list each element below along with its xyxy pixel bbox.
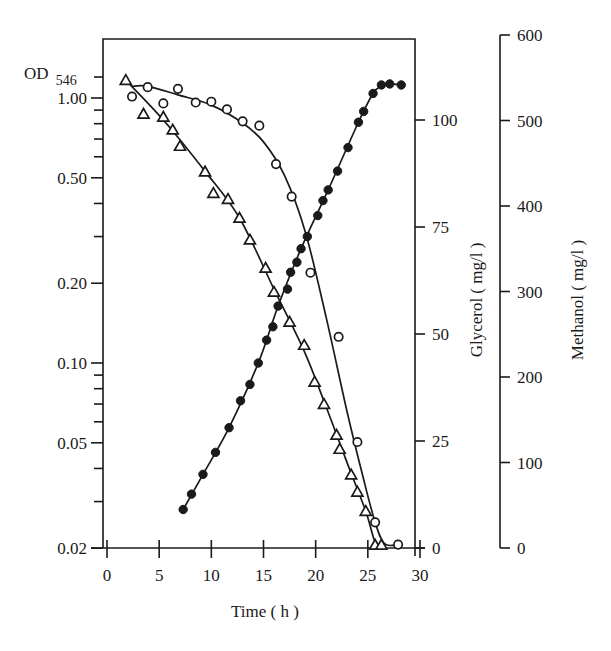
glycerol-tick-label: 25 (432, 432, 449, 451)
od-tick-label: 0.02 (57, 539, 87, 558)
od-point (359, 107, 367, 115)
plot-frame (103, 39, 415, 556)
od-point (187, 490, 195, 498)
od-point (211, 448, 219, 456)
methanol-point (353, 438, 361, 446)
methanol-point (143, 83, 151, 91)
methanol-point (371, 518, 379, 526)
glycerol-axis: 0255075100 (415, 111, 458, 558)
methanol-tick-label: 200 (517, 368, 543, 387)
glycerol-point (284, 317, 295, 327)
od-point (324, 186, 332, 194)
methanol-tick-label: 300 (517, 283, 543, 302)
od-point (319, 196, 327, 204)
plot-border (103, 39, 415, 556)
methanol-point (207, 97, 215, 105)
od-point (386, 80, 394, 88)
glycerol-tick-label: 75 (432, 218, 449, 237)
glycerol-tick-label: 0 (432, 539, 441, 558)
fit-curve-od546 (183, 84, 401, 510)
glycerol-point (334, 444, 345, 454)
methanol-tick-label: 0 (517, 539, 526, 558)
glycerol-point (268, 287, 279, 297)
od-point (354, 118, 362, 126)
od-axis-title-main: OD (24, 64, 49, 83)
methanol-tick-label: 500 (517, 112, 543, 131)
od-point (236, 397, 244, 405)
od-tick-label: 0.05 (57, 434, 87, 453)
methanol-point (394, 540, 402, 548)
methanol-axis: 0100200300400500600 (500, 26, 543, 558)
glycerol-tick-label: 50 (432, 325, 449, 344)
glycerol-point (208, 188, 219, 198)
od-point (297, 244, 305, 252)
chart: 1.000.500.200.100.050.02 051015202530 02… (0, 0, 611, 651)
od-point (293, 258, 301, 266)
x-axis-title: Time ( h ) (231, 602, 299, 621)
od-point (377, 81, 385, 89)
fit-curves (126, 80, 401, 548)
od-point (303, 232, 311, 240)
od-point (199, 470, 207, 478)
x-tick-label: 20 (307, 566, 324, 585)
methanol-point (272, 160, 280, 168)
od-point (225, 423, 233, 431)
glycerol-point (120, 75, 131, 85)
od-axis-title: OD 546 (24, 64, 77, 88)
methanol-tick-label: 100 (517, 454, 543, 473)
glycerol-point (319, 399, 330, 409)
glycerol-point (360, 506, 371, 516)
methanol-point (223, 105, 231, 113)
methanol-tick-label: 600 (517, 26, 543, 45)
od-point (283, 285, 291, 293)
od-point (333, 167, 341, 175)
od-point (262, 336, 270, 344)
methanol-point (174, 85, 182, 93)
x-tick-label: 25 (359, 566, 376, 585)
fit-curve-methanol (132, 86, 398, 546)
glycerol-axis-title: Glycerol ( mg/l ) (467, 243, 486, 358)
x-tick-label: 0 (103, 566, 112, 585)
methanol-point (255, 121, 263, 129)
glycerol-tick-label: 100 (432, 111, 458, 130)
methanol-point (128, 92, 136, 100)
methanol-point (159, 99, 167, 107)
od-point (314, 211, 322, 219)
od-axis-title-subscript: 546 (56, 73, 77, 88)
glycerol-point (331, 430, 342, 440)
od-point (397, 81, 405, 89)
od-point (286, 268, 294, 276)
methanol-point (238, 117, 246, 125)
methanol-point (334, 333, 342, 341)
od-tick-label: 0.20 (57, 274, 87, 293)
glycerol-point (234, 213, 245, 223)
od-point (269, 323, 277, 331)
x-tick-label: 10 (203, 566, 220, 585)
od-point (274, 302, 282, 310)
od-point (179, 505, 187, 513)
methanol-axis-title: Methanol ( mg/l ) (568, 240, 587, 360)
od-axis: 1.000.500.200.100.050.02 (57, 77, 103, 558)
methanol-point (287, 192, 295, 200)
glycerol-point (309, 376, 320, 386)
glycerol-point (352, 486, 363, 496)
od-tick-label: 0.50 (57, 169, 87, 188)
glycerol-point (346, 469, 357, 479)
methanol-point (191, 98, 199, 106)
od-tick-label: 1.00 (57, 89, 87, 108)
glycerol-point (244, 234, 255, 244)
od-tick-label: 0.10 (57, 354, 87, 373)
glycerol-point (138, 109, 149, 119)
x-tick-label: 30 (412, 566, 429, 585)
od-point (246, 380, 254, 388)
x-tick-label: 5 (155, 566, 164, 585)
od-point (369, 89, 377, 97)
fit-curve-glycerol (126, 80, 381, 548)
methanol-tick-label: 400 (517, 197, 543, 216)
x-tick-label: 15 (255, 566, 272, 585)
od-point (254, 359, 262, 367)
methanol-point (306, 268, 314, 276)
od-point (344, 143, 352, 151)
